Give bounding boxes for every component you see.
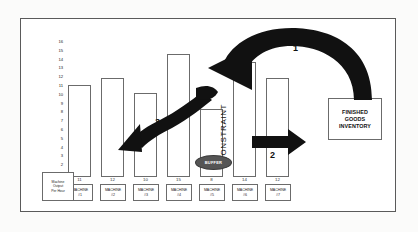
bar-value-machine-2: 12 bbox=[101, 177, 124, 182]
y-axis-tick: 8 bbox=[47, 110, 63, 114]
machine-label-line-2: #3 bbox=[144, 193, 148, 197]
machine-label-7: MACHINE#7 bbox=[265, 184, 291, 201]
bar-value-machine-4: 15 bbox=[167, 177, 190, 182]
machine-label-line-2: #2 bbox=[111, 193, 115, 197]
y-axis-tick: 10 bbox=[47, 93, 63, 97]
machine-label-5: MACHINE#5 bbox=[199, 184, 225, 201]
bar-value-machine-3: 10 bbox=[134, 177, 157, 182]
machine-label-2: MACHINE#2 bbox=[100, 184, 126, 201]
y-axis-tick: 12 bbox=[47, 75, 63, 79]
y-axis-tick: 5 bbox=[47, 137, 63, 141]
machine-label-6: MACHINE#6 bbox=[232, 184, 258, 201]
diagram-root: 16151413121110987654321 11MACHINE#112MAC… bbox=[0, 0, 418, 232]
machine-label-line-2: #6 bbox=[243, 193, 247, 197]
legend-line-3: Per Hour bbox=[51, 189, 65, 193]
bar-machine-3 bbox=[134, 93, 157, 177]
machine-label-line-2: #4 bbox=[177, 193, 181, 197]
y-axis-tick: 2 bbox=[47, 163, 63, 167]
machine-label-line-2: #7 bbox=[276, 193, 280, 197]
slide-background: 16151413121110987654321 11MACHINE#112MAC… bbox=[0, 0, 418, 232]
y-axis: 16151413121110987654321 bbox=[47, 40, 63, 176]
machine-label-line-2: #1 bbox=[78, 193, 82, 197]
y-axis-tick: 11 bbox=[47, 84, 63, 88]
y-axis-tick: 7 bbox=[47, 119, 63, 123]
y-axis-tick: 15 bbox=[47, 49, 63, 53]
y-axis-tick: 4 bbox=[47, 146, 63, 150]
buffer-badge: BUFFER bbox=[195, 155, 232, 170]
y-axis-tick: 14 bbox=[47, 58, 63, 62]
bar-value-machine-6: 14 bbox=[233, 177, 256, 182]
finished-goods-inventory-box: FINISHED GOODS INVENTORY bbox=[328, 98, 382, 140]
arrow-1-label: 1 bbox=[293, 44, 298, 53]
arrow-2-label: 2 bbox=[270, 151, 275, 160]
buffer-text: BUFFER bbox=[205, 161, 222, 165]
bar-machine-7 bbox=[266, 78, 289, 177]
machine-label-line-2: #5 bbox=[210, 193, 214, 197]
y-axis-tick: 13 bbox=[47, 66, 63, 70]
machine-output-legend: Machine Output Per Hour bbox=[42, 172, 74, 201]
y-axis-tick: 6 bbox=[47, 128, 63, 132]
bar-machine-4 bbox=[167, 54, 190, 177]
bar-machine-6 bbox=[233, 62, 256, 177]
constraint-text: CONSTRAINT bbox=[220, 104, 228, 162]
fgi-line-3: INVENTORY bbox=[339, 123, 371, 130]
y-axis-tick: 3 bbox=[47, 154, 63, 158]
bar-value-machine-7: 12 bbox=[266, 177, 289, 182]
fgi-line-1: FINISHED bbox=[342, 109, 368, 116]
machine-label-4: MACHINE#4 bbox=[166, 184, 192, 201]
machine-label-3: MACHINE#3 bbox=[133, 184, 159, 201]
bar-value-machine-5: 8 bbox=[200, 177, 223, 182]
y-axis-tick: 16 bbox=[47, 40, 63, 44]
arrow-3-label: 3 bbox=[155, 118, 160, 127]
fgi-line-2: GOODS bbox=[345, 116, 366, 123]
y-axis-tick: 9 bbox=[47, 102, 63, 106]
bar-machine-2 bbox=[101, 78, 124, 177]
bar-machine-1 bbox=[68, 85, 91, 177]
